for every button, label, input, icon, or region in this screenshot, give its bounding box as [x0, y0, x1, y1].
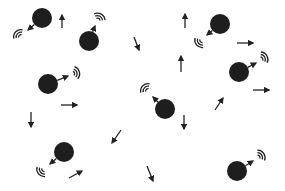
particle-ball-icon — [155, 99, 175, 119]
wave-icon — [255, 148, 267, 162]
wave-icon — [193, 36, 206, 49]
wave-icon — [35, 165, 48, 178]
particle-ball-icon — [227, 161, 247, 181]
particle-p5 — [138, 81, 175, 119]
wave-icon — [11, 27, 24, 40]
emission-arrow-icon — [57, 76, 68, 80]
particle-ball-icon — [79, 31, 99, 51]
particle-p4 — [35, 142, 74, 179]
motion-arrow-icon — [112, 130, 121, 143]
particle-p8 — [227, 148, 267, 181]
particles — [11, 8, 270, 181]
particle-ball-icon — [38, 74, 58, 94]
emission-arrow-icon — [207, 30, 212, 35]
motion-arrow-icon — [69, 171, 82, 178]
particle-p2 — [79, 11, 107, 51]
motion-arrow-icon — [134, 37, 139, 50]
particle-ball-icon — [32, 8, 52, 28]
emission-arrow-icon — [248, 63, 256, 67]
particle-emission-diagram — [0, 0, 285, 191]
particle-ball-icon — [54, 142, 74, 162]
motion-arrow-icon — [215, 98, 223, 110]
emission-arrow-icon — [50, 159, 56, 164]
wave-icon — [93, 11, 107, 23]
emission-arrow-icon — [93, 26, 95, 32]
emission-arrow-icon — [153, 97, 158, 102]
diagram-canvas — [0, 0, 285, 191]
particle-ball-icon — [229, 62, 249, 82]
wave-icon — [138, 81, 151, 94]
particle-p7 — [229, 50, 270, 82]
motion-arrow-icon — [147, 166, 153, 181]
emission-arrow-icon — [245, 161, 253, 166]
wave-icon — [72, 66, 81, 80]
wave-icon — [258, 50, 270, 64]
particle-p6 — [193, 14, 230, 50]
particle-ball-icon — [210, 14, 230, 34]
particle-p1 — [11, 8, 52, 41]
emission-arrow-icon — [28, 25, 34, 30]
particle-p3 — [38, 66, 81, 94]
